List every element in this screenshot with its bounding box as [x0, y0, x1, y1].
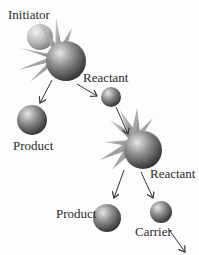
- chain-reaction-diagram: Initiator Reactant Product Reactant Prod…: [0, 0, 199, 255]
- product-label-1: Product: [13, 139, 53, 153]
- reactant-label-1: Reactant: [83, 71, 128, 85]
- product-sphere-1: [17, 105, 47, 135]
- arrow-to-product-1: [40, 80, 52, 103]
- initiator-label: Initiator: [8, 8, 50, 22]
- carrier-sphere: [150, 201, 172, 223]
- reactant-sphere-2: [124, 131, 162, 169]
- arrow-to-product-2: [114, 170, 124, 198]
- carrier-label: Carrier: [135, 225, 172, 239]
- product-sphere-2: [93, 204, 121, 232]
- product-label-2: Product: [56, 207, 96, 221]
- arrow-to-reactant: [77, 84, 97, 96]
- reactant-sphere-1: [46, 41, 86, 81]
- diagram-canvas: [0, 0, 199, 255]
- carrier-sphere-mid: [101, 87, 121, 107]
- reactant-label-2: Reactant: [150, 167, 195, 181]
